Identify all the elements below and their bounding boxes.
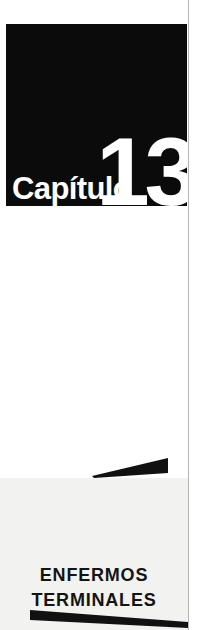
- chapter-title: ENFERMOS TERMINALES: [0, 563, 188, 613]
- right-margin-rule: [188, 0, 189, 630]
- page-body-blank: [0, 206, 188, 478]
- chapter-title-line-1: ENFERMOS: [0, 563, 188, 588]
- chapter-number-label: 13: [96, 124, 187, 206]
- wedge-pointing-left-icon: [92, 458, 168, 480]
- chapter-plate: Capítulo 13: [6, 24, 187, 206]
- chapter-title-line-2: TERMINALES: [0, 588, 188, 613]
- chapter-opening-page: Capítulo 13 ENFERMOS TERMINALES: [0, 0, 206, 630]
